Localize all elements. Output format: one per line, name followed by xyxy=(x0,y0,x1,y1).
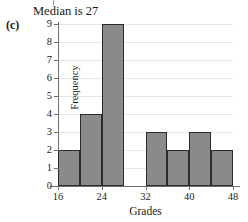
y-tick-mark xyxy=(54,132,59,133)
gridline xyxy=(58,24,233,25)
y-tick-label: 4 xyxy=(38,109,52,119)
chart-title: Median is 27 xyxy=(33,4,98,19)
figure-part-label: (c) xyxy=(6,18,19,33)
y-tick-mark xyxy=(54,168,59,169)
gridline xyxy=(58,42,233,43)
y-tick-mark xyxy=(54,96,59,97)
y-tick-mark xyxy=(54,114,59,115)
y-tick-label: 8 xyxy=(38,37,52,47)
x-axis-title: Grades xyxy=(58,205,233,217)
figure-container: (c) Median is 27 Frequency 0123456789 16… xyxy=(0,0,248,222)
x-tick-label: 24 xyxy=(90,191,114,202)
x-tick-mark xyxy=(58,186,59,190)
y-tick-mark xyxy=(54,150,59,151)
gridline xyxy=(58,78,233,79)
y-tick-label: 1 xyxy=(38,163,52,173)
x-tick-label: 16 xyxy=(46,191,70,202)
plot-area: Frequency xyxy=(58,24,233,186)
y-tick-mark xyxy=(54,42,59,43)
x-tick-label: 48 xyxy=(221,191,245,202)
histogram-bar xyxy=(58,150,80,186)
y-tick-mark xyxy=(54,24,59,25)
histogram-bar xyxy=(189,132,211,186)
x-tick-mark xyxy=(233,186,234,190)
y-tick-label: 5 xyxy=(38,91,52,101)
gridline xyxy=(58,60,233,61)
y-tick-label: 7 xyxy=(38,55,52,65)
histogram-bar xyxy=(80,114,102,186)
y-tick-mark xyxy=(54,60,59,61)
histogram-bar xyxy=(102,24,124,186)
y-tick-label: 0 xyxy=(38,181,52,191)
y-tick-label: 2 xyxy=(38,145,52,155)
x-tick-mark xyxy=(189,186,190,190)
x-tick-mark xyxy=(146,186,147,190)
histogram-bar xyxy=(146,132,168,186)
x-tick-label: 32 xyxy=(134,191,158,202)
y-axis-title: Frequency xyxy=(69,43,80,133)
y-tick-mark xyxy=(54,78,59,79)
y-tick-label: 9 xyxy=(38,19,52,29)
histogram-bar xyxy=(167,150,189,186)
x-tick-mark xyxy=(102,186,103,190)
y-tick-label: 6 xyxy=(38,73,52,83)
y-tick-label: 3 xyxy=(38,127,52,137)
histogram-bar xyxy=(211,150,233,186)
gridline xyxy=(58,96,233,97)
x-tick-label: 40 xyxy=(177,191,201,202)
